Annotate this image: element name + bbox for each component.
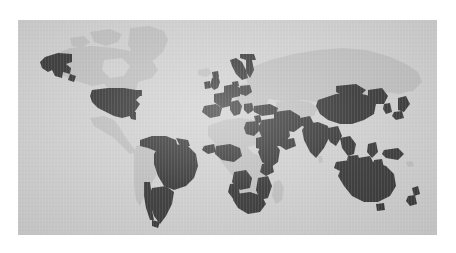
figure-caption xyxy=(0,0,1,1)
figure-title: World map of highlighted countries xyxy=(0,21,1,22)
figure-container: World map of highlighted countries xyxy=(0,0,456,253)
world-map-panel xyxy=(18,20,437,235)
world-map-svg xyxy=(18,20,437,235)
scan-softening-overlay xyxy=(18,20,437,235)
